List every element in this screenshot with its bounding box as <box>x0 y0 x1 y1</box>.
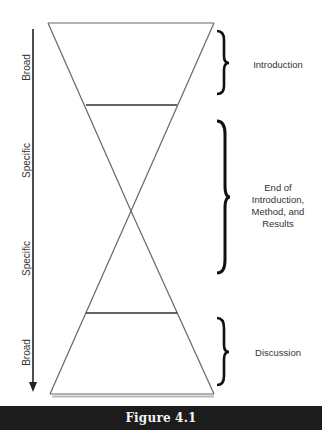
bottom-left-edge <box>50 211 131 394</box>
bottom-right-edge <box>131 211 214 394</box>
label-line-2: Introduction, <box>236 194 320 206</box>
figure-caption-bar: Figure 4.1 <box>0 406 322 430</box>
introduction-brace <box>217 31 229 94</box>
axis-label-specific-bottom: Specific <box>21 234 32 284</box>
label-line-3: Method, and <box>236 206 320 218</box>
figure-caption: Figure 4.1 <box>125 411 196 425</box>
label-discussion: Discussion <box>238 347 318 359</box>
middle-brace <box>217 121 230 273</box>
label-line-1: End of <box>236 182 320 194</box>
discussion-brace <box>217 318 229 385</box>
label-introduction: Introduction <box>238 59 318 71</box>
label-line-4: Results <box>236 218 320 230</box>
axis-label-specific-top: Specific <box>21 136 32 186</box>
label-method-results: End of Introduction, Method, and Results <box>236 182 320 230</box>
axis-label-broad-top: Broad <box>21 48 32 88</box>
arrow-down-icon <box>29 382 37 392</box>
top-right-edge <box>131 23 214 211</box>
hourglass-diagram: Broad Specific Specific Broad Introducti… <box>0 0 322 406</box>
top-left-edge <box>48 23 131 211</box>
axis-label-broad-bottom: Broad <box>21 333 32 373</box>
